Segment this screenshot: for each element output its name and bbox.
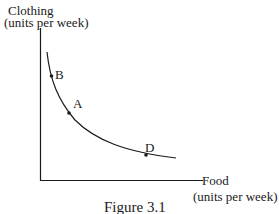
point-d-label: D bbox=[145, 141, 154, 155]
indifference-curve-plot bbox=[0, 0, 279, 214]
indifference-curve bbox=[47, 52, 176, 158]
point-b-marker bbox=[50, 74, 54, 78]
point-b-label: B bbox=[55, 68, 64, 82]
point-a-label: A bbox=[73, 97, 82, 111]
point-a-marker bbox=[67, 111, 71, 115]
figure-caption: Figure 3.1 bbox=[104, 200, 166, 214]
x-axis-label-title: Food bbox=[202, 174, 229, 188]
x-axis-label-units: (units per week) bbox=[193, 190, 277, 204]
